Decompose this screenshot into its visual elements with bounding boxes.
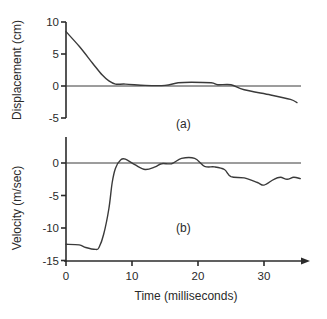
velocity-chart: 0-5-10-15 Velocity (m/sec) (b) 0102030 T… bbox=[10, 137, 310, 303]
x-axis-arrow-icon bbox=[301, 258, 310, 265]
displacement-chart: 1050-5 Displacement (cm) (a) bbox=[10, 16, 301, 131]
y-tick-label: 5 bbox=[53, 48, 59, 60]
y-tick-label: 0 bbox=[53, 80, 59, 92]
y-tick-label: -15 bbox=[42, 255, 59, 267]
time-x-ticks: 0102030 bbox=[63, 261, 271, 282]
panel-a-label: (a) bbox=[176, 117, 191, 131]
panel-b-label: (b) bbox=[176, 221, 191, 235]
y-tick-label: -5 bbox=[49, 112, 59, 124]
figure: 1050-5 Displacement (cm) (a) 0-5-10-15 V… bbox=[0, 0, 327, 319]
x-tick-label: 20 bbox=[192, 270, 205, 282]
y-tick-label: 10 bbox=[46, 16, 59, 28]
displacement-y-ticks: 1050-5 bbox=[46, 16, 66, 124]
displacement-curve bbox=[66, 32, 297, 103]
y-tick-label: -10 bbox=[42, 222, 59, 234]
velocity-curve bbox=[66, 158, 300, 250]
velocity-axis-title: Velocity (m/sec) bbox=[10, 166, 24, 251]
x-tick-label: 0 bbox=[63, 270, 69, 282]
x-tick-label: 10 bbox=[126, 270, 139, 282]
y-tick-label: 0 bbox=[53, 157, 59, 169]
displacement-axis-title: Displacement (cm) bbox=[10, 20, 24, 120]
y-tick-label: -5 bbox=[49, 190, 59, 202]
x-tick-label: 30 bbox=[258, 270, 271, 282]
time-axis-title: Time (milliseconds) bbox=[135, 289, 238, 303]
velocity-y-ticks: 0-5-10-15 bbox=[42, 157, 66, 267]
